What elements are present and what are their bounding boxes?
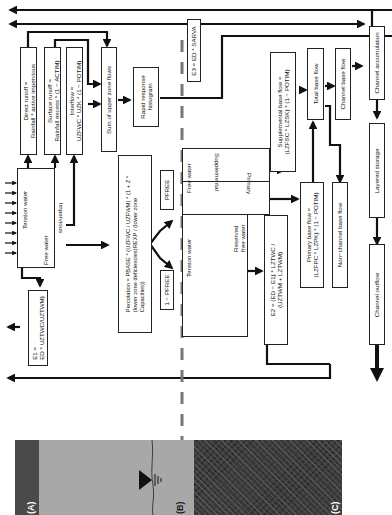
interflow-box: Interflow = UZFWC * UZK * (1 − POTIM) [66, 47, 83, 155]
sum-upper-zone-label: Sum of upper zone flows [105, 65, 112, 133]
e2-label: E2 = (ED − E1) * LZTWC / (UZTWM + LZTWM) [269, 244, 284, 317]
layered-storage-label: Layered storage [373, 148, 380, 193]
panel-b-water [39, 440, 194, 515]
impervious-label: Impervious [57, 203, 64, 233]
channel-accumulation-box: Channel accumulation [369, 26, 385, 100]
reserved-free-water-label: Reserved free water [232, 224, 247, 252]
rapid-response-box: Rapid response histogram [133, 67, 159, 127]
one-minus-pfree-label: 1 − PFREE [163, 274, 170, 305]
e1-box: E1 = ED * UZTWC/UZTWM) [28, 290, 48, 366]
layered-storage-box: Layered storage [369, 123, 385, 218]
upper-zone-storage: Impervious Tension water Free water [17, 168, 64, 268]
panel-a-label: (A) [26, 502, 36, 515]
total-base-flow-box: Total base flow [307, 48, 324, 120]
panel-c-bedrock [194, 440, 342, 515]
water-table-icon [39, 440, 194, 515]
channel-accumulation-label: Channel accumulation [373, 32, 380, 93]
direct-runoff-box: Direct runoff = Rainfall * active imperv… [20, 47, 37, 155]
supplemental-base-flow-label: Supplemental base flow = (LZFSC * LZSK) … [276, 69, 291, 154]
tension-water-lower-label: Tension water [185, 239, 192, 277]
rapid-response-label: Rapid response histogram [139, 75, 154, 118]
sum-upper-zone-box: Sum of upper zone flows [101, 47, 117, 152]
surface-runoff-box: Surface runoff = Rainfall excess * (1 − … [44, 47, 61, 155]
channel-base-flow-box: Channel base flow [335, 48, 351, 120]
total-base-flow-label: Total base flow [312, 64, 319, 105]
tension-water-upper-label: Tension water [21, 191, 28, 229]
channel-outflow-box: Channel outflow [369, 244, 385, 345]
primary-base-flow-label: Primary base flow = (LZFPC * LZPK) * (1 … [305, 192, 320, 277]
supplemental-primary-divider [182, 181, 270, 182]
panel-b-label: (B) [175, 502, 185, 515]
e3-label: E3 = ED * SARVA [190, 26, 197, 75]
percolation-label: Percolation = PBASE * (UZFWC / UZFWM) * … [125, 176, 146, 312]
e2-box: E2 = (ED − E1) * LZTWC / (UZTWM + LZTWM) [264, 215, 288, 345]
free-water-upper-label: Free water [42, 235, 49, 265]
pfree-label: PFREE [163, 180, 170, 201]
e1-label: E1 = ED * UZTWC/UZTWM) [31, 296, 46, 360]
non-channel-base-flow-label: Non−channel base flow [336, 203, 343, 268]
panel-c-label: (C) [330, 502, 340, 515]
interflow-label: Interflow = UZFWC * UZK * (1 − POTIM) [67, 61, 82, 142]
supplemental-base-flow-box: Supplemental base flow = (LZFSC * LZSK) … [270, 52, 296, 172]
channel-base-flow-label: Channel base flow [339, 59, 346, 110]
impervious-section: Impervious [54, 168, 66, 268]
channel-outflow-label: Channel outflow [373, 272, 380, 316]
one-minus-pfree-box: 1 − PFREE [160, 270, 174, 310]
pfree-box: PFREE [160, 170, 174, 210]
percolation-box: Percolation = PBASE * (UZFWC / UZFWM) * … [118, 155, 152, 333]
surface-runoff-label: Surface runoff = Rainfall excess * (1 − … [45, 61, 60, 142]
direct-runoff-label: Direct runoff = Rainfall * active imperv… [21, 64, 36, 138]
e3-box: E3 = ED * SARVA [187, 19, 201, 82]
non-channel-base-flow-box: Non−channel base flow [332, 182, 348, 288]
primary-base-flow-box: Primary base flow = (LZFPC * LZPK) * (1 … [300, 182, 324, 288]
